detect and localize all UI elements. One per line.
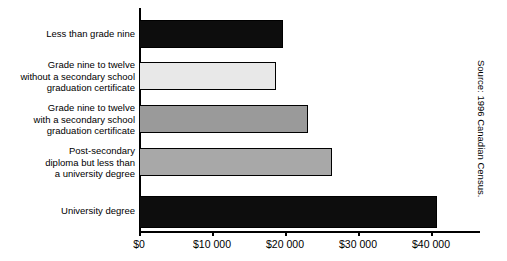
x-tick-label-3: $30 000 [339,238,377,250]
x-tick-4 [431,231,433,236]
category-labels: Less than grade nine Grade nine to twelv… [0,0,135,232]
category-label-4: University degree [61,205,135,217]
bar-1 [139,62,276,90]
x-tick-label-1: $10 000 [193,238,231,250]
x-tick-label-4: $40 000 [412,238,450,250]
bar-2 [139,105,308,133]
bar-0 [139,20,283,48]
category-label-0: Less than grade nine [46,28,135,40]
bar-3 [139,148,332,176]
x-tick-1 [212,231,214,236]
bar-chart: Less than grade nine Grade nine to twelv… [0,0,507,261]
category-label-2: Grade nine to twelve with a secondary sc… [34,102,135,137]
x-tick-2 [285,231,287,236]
x-tick-3 [358,231,360,236]
x-tick-0 [139,231,141,236]
bar-4 [139,196,437,228]
x-axis-line [139,231,480,233]
source-note: Source: 1996 Canadian Census. [476,60,487,197]
x-tick-label-2: $20 000 [266,238,304,250]
category-label-1: Grade nine to twelve without a secondary… [20,59,135,94]
category-label-3: Post-secondary diploma but less than a u… [45,145,135,180]
x-tick-label-0: $0 [133,238,145,250]
